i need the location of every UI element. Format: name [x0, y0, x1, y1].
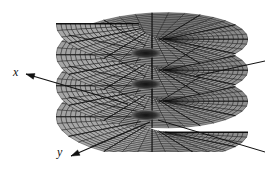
- axis-label-y: y: [57, 146, 62, 158]
- axis-label-x: x: [13, 66, 18, 78]
- riemann-surface-canvas: [0, 0, 266, 171]
- riemann-surface-figure: x y: [0, 0, 266, 171]
- surface-mesh-group: [56, 13, 248, 159]
